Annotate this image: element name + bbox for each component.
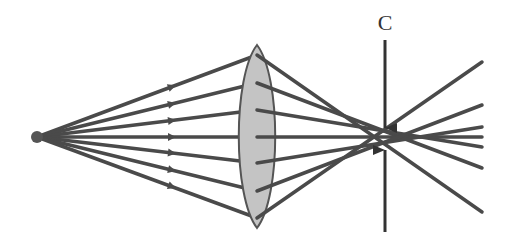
refracted-ray	[257, 105, 482, 191]
ray-direction-arrow-icon	[168, 149, 177, 158]
ray-direction-arrow-icon	[168, 133, 176, 141]
outgoing-rays	[257, 55, 482, 218]
incoming-ray	[37, 137, 257, 191]
point-source	[31, 131, 43, 143]
ray-direction-arrow-icon	[168, 116, 177, 125]
incoming-rays	[37, 55, 257, 218]
refracted-ray	[257, 83, 482, 168]
incoming-ray	[37, 83, 257, 137]
lens-diagram: C	[0, 0, 508, 241]
focus-label: C	[378, 10, 393, 35]
